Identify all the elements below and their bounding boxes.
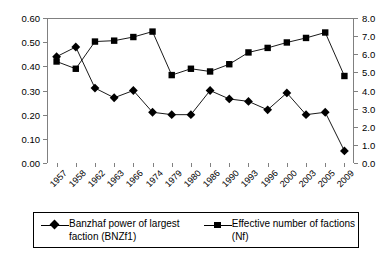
data-point-diamond (244, 97, 253, 106)
series-plot (47, 18, 354, 163)
data-point-diamond (206, 86, 215, 95)
left-axis-tick-label: 0.30 (22, 85, 41, 96)
right-axis-tick-label: 1.0 (362, 139, 375, 150)
chart-legend: Banzhaf power of largest faction (BNZf1)… (33, 212, 359, 248)
data-point-square (322, 29, 328, 35)
left-tick (43, 163, 47, 164)
series-line-2 (57, 32, 345, 76)
right-axis-tick-label: 3.0 (362, 103, 375, 114)
data-point-square (341, 73, 347, 79)
plot-area: 0.000.100.200.300.400.500.60 0.01.02.03.… (47, 18, 354, 163)
data-point-square (130, 34, 136, 40)
right-axis-tick-label: 0.0 (362, 158, 375, 169)
x-tick (306, 163, 307, 167)
x-axis-tick-label: 1957 (47, 168, 68, 189)
data-point-square (73, 66, 79, 72)
data-point-square (169, 72, 175, 78)
data-point-diamond (91, 84, 100, 93)
data-point-diamond (225, 95, 234, 104)
right-axis-tick-label: 2.0 (362, 121, 375, 132)
legend-label-banzhaf: Banzhaf power of largest faction (BNZf1) (69, 218, 202, 243)
data-point-square (53, 58, 59, 64)
left-axis-tick-label: 0.40 (22, 61, 41, 72)
data-point-diamond (71, 43, 80, 52)
x-axis-tick-label: 1962 (86, 168, 107, 189)
x-axis-tick-label: 2005 (316, 168, 337, 189)
legend-label-nf: Effective number of factions (Nf) (232, 218, 358, 243)
x-tick (153, 163, 154, 167)
data-point-square (149, 28, 155, 34)
right-tick (354, 91, 358, 92)
x-axis-tick-label: 1979 (163, 168, 184, 189)
right-tick (354, 109, 358, 110)
left-axis-tick-label: 0.10 (22, 133, 41, 144)
left-axis-tick-label: 0.20 (22, 109, 41, 120)
x-axis-tick-label: 1963 (105, 168, 126, 189)
x-tick (95, 163, 96, 167)
data-point-square (92, 38, 98, 44)
data-point-diamond (110, 93, 119, 102)
right-tick (354, 145, 358, 146)
legend-entry-banzhaf: Banzhaf power of largest faction (BNZf1) (34, 218, 202, 243)
data-point-diamond (340, 147, 349, 156)
x-axis-tick-label: 1990 (220, 168, 241, 189)
data-point-square (188, 66, 194, 72)
right-axis-tick-label: 5.0 (362, 67, 375, 78)
x-tick (172, 163, 173, 167)
data-point-diamond (167, 110, 176, 119)
data-point-square (303, 35, 309, 41)
data-point-diamond (321, 108, 330, 117)
right-tick (354, 127, 358, 128)
data-point-square (111, 37, 117, 43)
x-axis-tick-label: 1980 (182, 168, 203, 189)
x-tick (287, 163, 288, 167)
right-tick (354, 54, 358, 55)
x-axis-tick-label: 1986 (201, 168, 222, 189)
x-axis-tick-label: 2000 (278, 168, 299, 189)
x-tick (344, 163, 345, 167)
data-point-diamond (187, 110, 196, 119)
x-axis-tick-label: 2009 (335, 168, 356, 189)
x-axis-tick-label: 2003 (297, 168, 318, 189)
chart-container: 0.000.100.200.300.400.500.60 0.01.02.03.… (0, 0, 390, 256)
data-point-square (207, 68, 213, 74)
right-axis-tick-label: 8.0 (362, 13, 375, 24)
series-line-1 (57, 47, 345, 151)
right-tick (354, 36, 358, 37)
right-tick (354, 163, 358, 164)
x-axis-tick-label: 1996 (258, 168, 279, 189)
x-tick (114, 163, 115, 167)
left-axis-tick-label: 0.50 (22, 37, 41, 48)
x-axis-tick-label: 1958 (67, 168, 88, 189)
x-tick (268, 163, 269, 167)
left-axis-tick-label: 0.00 (22, 158, 41, 169)
x-axis-tick-label: 1966 (124, 168, 145, 189)
x-tick (57, 163, 58, 167)
legend-entry-nf: Effective number of factions (Nf) (202, 218, 358, 243)
x-tick (76, 163, 77, 167)
right-tick (354, 18, 358, 19)
x-tick (191, 163, 192, 167)
x-tick (229, 163, 230, 167)
data-point-square (226, 61, 232, 67)
data-point-square (264, 45, 270, 51)
right-axis-tick-label: 7.0 (362, 31, 375, 42)
data-point-square (245, 49, 251, 55)
x-tick (210, 163, 211, 167)
x-axis-tick-label: 1974 (143, 168, 164, 189)
right-axis-tick-label: 6.0 (362, 49, 375, 60)
right-axis-tick-label: 4.0 (362, 85, 375, 96)
x-axis-tick-label: 1993 (239, 168, 260, 189)
left-axis-tick-label: 0.60 (22, 13, 41, 24)
x-tick (248, 163, 249, 167)
data-point-square (284, 39, 290, 45)
x-tick (325, 163, 326, 167)
diamond-marker-icon (41, 219, 69, 231)
x-tick (133, 163, 134, 167)
square-marker-icon (204, 219, 232, 231)
right-tick (354, 72, 358, 73)
